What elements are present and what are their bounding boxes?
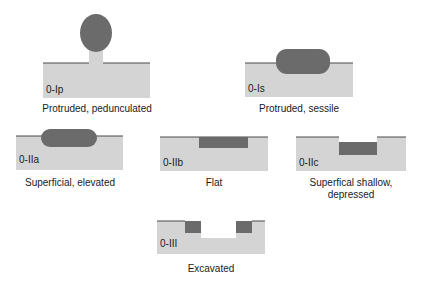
excavation [201, 220, 236, 238]
lesion-caption: Protruded, pedunculated [42, 103, 152, 114]
depressed-lesion [339, 142, 377, 155]
lesion-code: 0-IIa [19, 154, 39, 165]
panel-0-iia: 0-IIa Superficial, elevated [16, 129, 123, 188]
lesion-caption: Superficial, elevated [25, 177, 115, 188]
lesion-caption: Excavated [188, 263, 235, 274]
polyp-head [80, 14, 112, 52]
elevated-lesion [41, 129, 97, 147]
panel-0-iib: 0-IIb Flat [160, 137, 268, 188]
lesion-code: 0-IIb [163, 157, 183, 168]
panel-0-ip: 0-Ip Protruded, pedunculated [42, 14, 152, 114]
lesion-caption: Flat [206, 177, 223, 188]
panel-0-iii: 0-III Excavated [157, 220, 265, 274]
paris-classification-diagram: 0-Ip Protruded, pedunculated 0-Is Protru… [0, 0, 421, 287]
lesion-edge-right [236, 221, 252, 233]
panel-0-iic: 0-IIc Superfical shallow, depressed [296, 136, 406, 200]
depression [339, 136, 377, 142]
lesion-caption: Protruded, sessile [259, 103, 339, 114]
flat-lesion [199, 137, 248, 148]
panel-0-is: 0-Is Protruded, sessile [245, 49, 353, 114]
lesion-edge-left [185, 221, 201, 233]
lesion-code: 0-Ip [46, 84, 64, 95]
lesion-caption-line-2: depressed [328, 189, 375, 200]
lesion-code: 0-IIc [299, 157, 318, 168]
lesion-code: 0-Is [248, 83, 265, 94]
sessile-lesion [276, 49, 330, 74]
lesion-caption-line-1: Superfical shallow, [310, 177, 393, 188]
lesion-code: 0-III [160, 238, 177, 249]
